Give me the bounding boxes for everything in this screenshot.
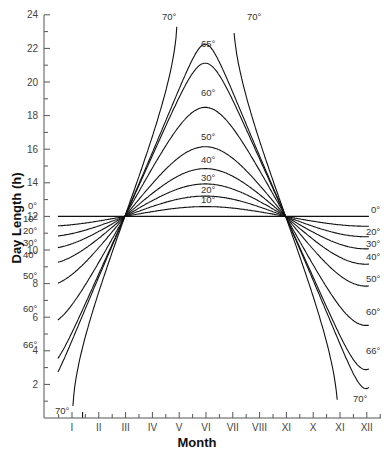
- latitude-label: 60°: [201, 87, 216, 98]
- latitude-label: 65°: [201, 38, 216, 49]
- x-tick-label: VII: [227, 422, 239, 433]
- latitude-label: 60°: [23, 303, 38, 314]
- y-tick-label: 16: [27, 144, 39, 155]
- y-tick-label: 22: [27, 43, 39, 54]
- x-tick-label: XI: [282, 422, 291, 433]
- y-tick-label: 2: [32, 379, 38, 390]
- x-tick-label: X: [310, 422, 317, 433]
- latitude-label: 10°: [201, 194, 216, 205]
- x-tick-label: I: [71, 422, 74, 433]
- latitude-label: 20°: [366, 226, 381, 237]
- latitude-label: 60°: [366, 306, 381, 317]
- day-length-chart: 24681012141618202224 IIIIIIIVVVIVIIVIIIX…: [0, 0, 391, 457]
- y-tick-label: 18: [27, 110, 39, 121]
- latitude-label: 40°: [23, 249, 38, 260]
- latitude-label: 50°: [23, 270, 38, 281]
- latitude-label: 50°: [366, 273, 381, 284]
- latitude-label: 0°: [28, 200, 37, 211]
- latitude-label: 70°: [353, 393, 368, 404]
- y-tick-label: 24: [27, 9, 39, 20]
- latitude-label: 0°: [371, 204, 380, 215]
- x-tick-label: XI: [335, 422, 344, 433]
- x-tick-label: II: [96, 422, 102, 433]
- latitude-label: 70°: [247, 11, 262, 22]
- latitude-label: 40°: [366, 251, 381, 262]
- x-tick-label: VI: [201, 422, 210, 433]
- latitude-label: 40°: [201, 154, 216, 165]
- latitude-label: 30°: [23, 237, 38, 248]
- y-tick-label: 20: [27, 77, 39, 88]
- curve-labels: 0°10°20°30°40°50°60°66°70°0°20°30°40°50°…: [23, 11, 381, 416]
- latitude-label: 70°: [162, 11, 177, 22]
- x-tick-label: VIII: [252, 422, 267, 433]
- latitude-label: 20°: [23, 225, 38, 236]
- latitude-curves: [58, 27, 369, 418]
- latitude-label: 66°: [23, 339, 38, 350]
- x-tick-label: III: [121, 422, 129, 433]
- x-tick-label: XII: [361, 422, 373, 433]
- latitude-label: 50°: [201, 131, 216, 142]
- y-tick-label: 14: [27, 177, 39, 188]
- latitude-label: 70°: [55, 405, 70, 416]
- latitude-label: 10°: [23, 213, 38, 224]
- x-tick-label: IV: [148, 422, 158, 433]
- latitude-label: 66°: [366, 345, 381, 356]
- latitude-label: 30°: [201, 172, 216, 183]
- latitude-label: 30°: [366, 238, 381, 249]
- x-ticks: IIIIIIIVVVIVIIVIIIXIXXIXII: [59, 412, 381, 433]
- x-tick-label: V: [176, 422, 183, 433]
- y-axis-title: Day Length (h): [9, 173, 24, 264]
- x-axis-title: Month: [178, 435, 217, 450]
